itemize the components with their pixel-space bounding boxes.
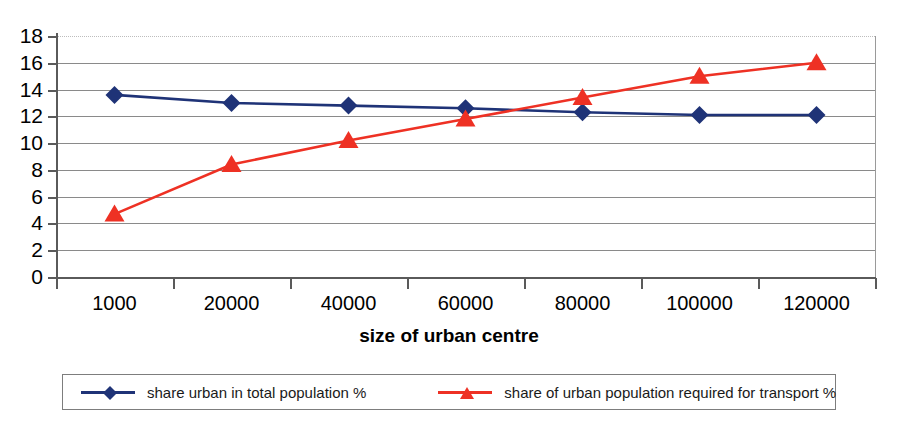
- series-line: [115, 63, 817, 214]
- data-point: [106, 86, 124, 104]
- diamond-icon: [102, 386, 118, 400]
- data-point: [808, 106, 826, 124]
- legend-item-share-urban-total: share urban in total population %: [81, 375, 366, 409]
- data-point: [574, 103, 592, 121]
- chart-legend: share urban in total population % share …: [62, 374, 836, 410]
- data-point: [340, 97, 358, 115]
- triangle-icon: [459, 386, 475, 400]
- triangle-marker-icon: [438, 383, 492, 401]
- series-red: [105, 53, 827, 221]
- diamond-marker-icon: [81, 383, 135, 401]
- chart-container: 181614121086420 100020000400006000080000…: [0, 0, 898, 435]
- series-layer: [0, 0, 898, 300]
- legend-item-share-urban-transport: share of urban population required for t…: [438, 375, 836, 409]
- legend-label-0: share urban in total population %: [147, 384, 366, 401]
- x-axis-title: size of urban centre: [0, 325, 898, 347]
- plot-region: 181614121086420 100020000400006000080000…: [0, 0, 898, 300]
- data-point: [807, 53, 827, 70]
- legend-label-1: share of urban population required for t…: [504, 384, 836, 401]
- data-point: [223, 94, 241, 112]
- data-point: [691, 106, 709, 124]
- data-point: [105, 205, 125, 222]
